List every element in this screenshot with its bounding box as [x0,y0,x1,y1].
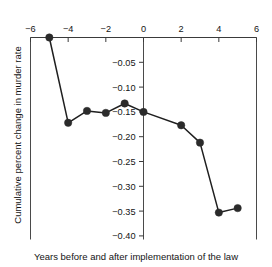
data-point [102,109,109,116]
y-axis-title-container: Cumulative percent change in murder rate [6,30,28,240]
y-tick-label: −0.10 [112,83,135,93]
x-tick-label: 2 [179,24,184,34]
x-tick-label: −4 [63,24,73,34]
data-point [83,107,90,114]
x-tick-label: 6 [254,24,259,34]
data-point [196,139,203,146]
data-point [121,100,128,107]
x-axis-tick-labels: −6−4−20246 [25,24,259,34]
y-tick-label: −0.40 [112,231,135,241]
y-axis-title: Cumulative percent change in murder rate [12,46,23,223]
y-axis-ticks [139,62,144,236]
x-tick-label: 0 [141,24,146,34]
x-axis-ticks [31,38,257,43]
y-axis-tick-labels: −0.05−0.10−0.15−0.20−0.25−0.30−0.35−0.40 [112,58,135,242]
data-point [64,119,71,126]
chart-plot-area: −6−4−20246 −0.05−0.10−0.15−0.20−0.25−0.3… [0,0,272,267]
y-tick-label: −0.05 [112,58,135,68]
chart-figure: Cumulative percent change in murder rate… [0,0,272,267]
y-tick-label: −0.35 [112,207,135,217]
x-tick-label: 4 [216,24,221,34]
y-tick-label: −0.20 [112,132,135,142]
data-point [234,204,241,211]
x-axis-title: Years before and after implementation of… [0,251,272,262]
data-point [46,34,53,41]
data-point [177,122,184,129]
data-point [215,209,222,216]
y-tick-label: −0.25 [112,157,135,167]
data-point [140,108,147,115]
y-tick-label: −0.30 [112,182,135,192]
y-tick-label: −0.15 [112,107,135,117]
x-tick-label: −2 [101,24,111,34]
